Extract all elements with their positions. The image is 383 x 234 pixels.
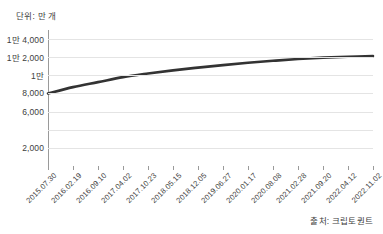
x-axis-tick <box>148 166 149 170</box>
data-series-line <box>48 30 373 166</box>
x-axis-tick <box>123 166 124 170</box>
gridline <box>48 93 373 94</box>
y-axis-tick-label: 2,000 <box>22 143 44 153</box>
gridline <box>48 39 373 40</box>
gridline <box>48 112 373 113</box>
x-axis-tick <box>73 166 74 170</box>
y-axis-tick-label: 8,000 <box>22 88 44 98</box>
x-axis-labels: 2015.07.302016.02.192016.09.102017.04.02… <box>48 171 373 211</box>
gridline <box>48 130 373 131</box>
x-axis-ticks <box>48 166 373 170</box>
x-axis-tick <box>223 166 224 170</box>
x-axis-tick <box>348 166 349 170</box>
source-attribution: 출처: 크립토퀀트 <box>310 214 373 226</box>
x-axis-tick <box>98 166 99 170</box>
x-axis-tick <box>373 166 374 170</box>
y-axis-tick-label: 6,000 <box>22 107 44 117</box>
x-axis-tick <box>323 166 324 170</box>
x-axis-tick <box>48 166 49 170</box>
x-axis-tick <box>173 166 174 170</box>
plot-area <box>48 30 373 166</box>
x-axis-tick <box>298 166 299 170</box>
gridline <box>48 57 373 58</box>
gridline <box>48 148 373 149</box>
y-axis-tick-label: 1만 2,000 <box>7 51 44 63</box>
x-axis-tick <box>273 166 274 170</box>
y-axis-tick-label: 1만 <box>31 69 44 81</box>
unit-caption: 단위: 만 개 <box>16 9 57 21</box>
gridline <box>48 75 373 76</box>
y-axis-tick-label: 1만 4,000 <box>7 33 44 45</box>
x-axis-tick <box>198 166 199 170</box>
x-axis-tick <box>248 166 249 170</box>
y-axis-labels: 1만 4,0001만 2,0001만8,0006,0002,000 <box>0 30 44 166</box>
